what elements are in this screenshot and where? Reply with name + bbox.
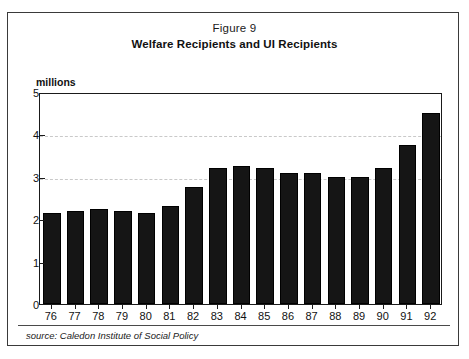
- bar: [90, 209, 108, 304]
- x-axis-tick-mark: [288, 305, 289, 309]
- x-axis-tick-mark: [312, 305, 313, 309]
- x-axis-tick-mark: [430, 305, 431, 309]
- figure-number: Figure 9: [0, 22, 469, 34]
- y-axis-tick-label: 1: [15, 257, 39, 269]
- x-axis-tick-label: 92: [417, 310, 443, 322]
- x-axis-tick-label: 89: [346, 310, 372, 322]
- y-axis-tick-mark: [40, 220, 45, 221]
- x-axis-tick-mark: [383, 305, 384, 309]
- bar: [399, 145, 417, 304]
- x-axis-tick-label: 91: [393, 310, 419, 322]
- x-axis-tick-mark: [241, 305, 242, 309]
- bar: [114, 211, 132, 304]
- bar: [162, 206, 180, 304]
- bar: [351, 177, 369, 304]
- y-axis-ticks: [40, 93, 48, 305]
- source-note: source: Caledon Institute of Social Poli…: [26, 330, 198, 341]
- y-axis-tick-label: 3: [15, 172, 39, 184]
- bar: [422, 113, 440, 304]
- x-axis-tick-mark: [169, 305, 170, 309]
- x-axis-tick-mark: [122, 305, 123, 309]
- x-axis-tick-label: 84: [228, 310, 254, 322]
- figure-container: Figure 9 Welfare Recipients and UI Recip…: [0, 0, 469, 359]
- bar: [375, 168, 393, 304]
- x-axis-tick-label: 90: [370, 310, 396, 322]
- x-axis-tick-label: 76: [38, 310, 64, 322]
- x-axis: 7677787980818283848586878889909192: [39, 305, 442, 327]
- x-axis-tick-mark: [193, 305, 194, 309]
- y-axis-tick-label: 5: [15, 87, 39, 99]
- x-axis-tick-mark: [146, 305, 147, 309]
- x-axis-tick-label: 79: [109, 310, 135, 322]
- bar: [328, 177, 346, 304]
- x-axis-tick-mark: [264, 305, 265, 309]
- x-axis-tick-label: 80: [133, 310, 159, 322]
- x-axis-tick-label: 86: [275, 310, 301, 322]
- x-axis-tick-mark: [217, 305, 218, 309]
- x-axis-tick-mark: [335, 305, 336, 309]
- y-axis-tick-label: 2: [15, 214, 39, 226]
- bars-layer: [40, 94, 441, 304]
- bar: [185, 187, 203, 304]
- x-axis-tick-label: 83: [204, 310, 230, 322]
- x-axis-tick-label: 77: [62, 310, 88, 322]
- x-axis-tick-mark: [98, 305, 99, 309]
- y-axis-tick-mark: [40, 135, 45, 136]
- x-axis-tick-label: 78: [85, 310, 111, 322]
- x-axis-tick-label: 82: [180, 310, 206, 322]
- bar: [67, 211, 85, 304]
- bar: [304, 173, 322, 304]
- x-axis-tick-mark: [75, 305, 76, 309]
- figure-title: Welfare Recipients and UI Recipients: [0, 38, 469, 50]
- y-axis-tick-label: 4: [15, 129, 39, 141]
- x-axis-tick-label: 85: [251, 310, 277, 322]
- bar: [138, 213, 156, 304]
- x-axis-tick-label: 87: [299, 310, 325, 322]
- y-axis-units-label: millions: [36, 76, 76, 88]
- x-axis-tick-mark: [359, 305, 360, 309]
- y-axis-labels: 012345: [13, 93, 39, 305]
- bar: [256, 168, 274, 304]
- plot-area: [39, 93, 442, 305]
- y-axis-tick-label: 0: [15, 299, 39, 311]
- source-divider: [18, 325, 450, 326]
- x-axis-tick-label: 81: [156, 310, 182, 322]
- y-axis-tick-mark: [40, 178, 45, 179]
- bar: [233, 166, 251, 304]
- bar: [280, 173, 298, 304]
- x-axis-tick-mark: [51, 305, 52, 309]
- x-axis-tick-label: 88: [322, 310, 348, 322]
- x-axis-tick-mark: [406, 305, 407, 309]
- bar: [209, 168, 227, 304]
- y-axis-tick-mark: [40, 263, 45, 264]
